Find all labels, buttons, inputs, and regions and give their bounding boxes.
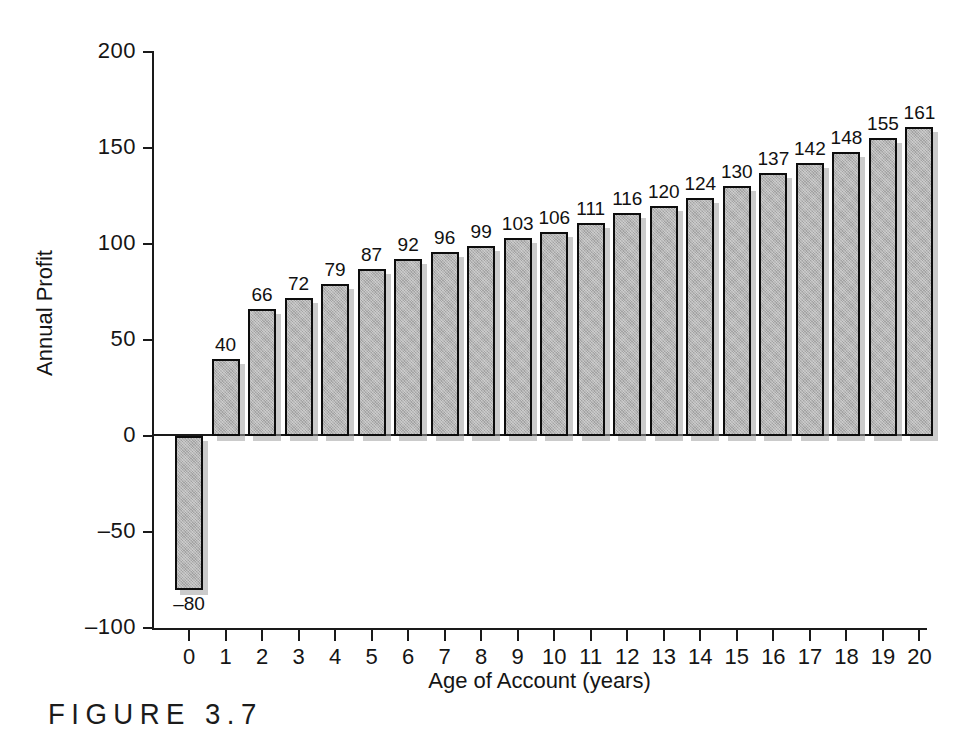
x-tick-10 [553, 630, 555, 641]
x-tick-8 [480, 630, 482, 641]
y-axis-line [152, 52, 154, 630]
y-tick-label-wrap: 0 [40, 424, 136, 446]
x-tick-6 [407, 630, 409, 641]
x-tick-label: 2 [242, 644, 282, 670]
x-tick-18 [845, 630, 847, 641]
bar [431, 252, 459, 436]
y-tick-label: 50 [50, 328, 136, 350]
y-tick-100 [143, 243, 154, 245]
x-tick-label: 4 [315, 644, 355, 670]
x-tick-label: 17 [790, 644, 830, 670]
x-tick-19 [882, 630, 884, 641]
x-tick-label: 11 [571, 644, 611, 670]
y-tick--100 [143, 627, 154, 629]
y-tick-label: –50 [50, 520, 136, 542]
bar [869, 138, 897, 436]
x-tick-label: 12 [607, 644, 647, 670]
x-tick-0 [188, 630, 190, 641]
x-tick-label: 3 [279, 644, 319, 670]
y-tick-150 [143, 147, 154, 149]
bar [796, 163, 824, 436]
x-tick-label: 19 [863, 644, 903, 670]
x-tick-4 [334, 630, 336, 641]
x-tick-9 [517, 630, 519, 641]
x-tick-label: 14 [680, 644, 720, 670]
bar [394, 259, 422, 436]
x-tick-1 [225, 630, 227, 641]
x-tick-2 [261, 630, 263, 641]
y-tick-label-wrap: 150 [40, 136, 136, 158]
bar [358, 269, 386, 436]
figure-container: 200150100500–50–100 01234567891011121314… [0, 0, 976, 742]
figure-caption: FIGURE 3.7 [48, 697, 263, 731]
x-tick-label: 1 [206, 644, 246, 670]
x-tick-label: 16 [753, 644, 793, 670]
x-tick-label: 20 [899, 644, 939, 670]
x-tick-label: 18 [826, 644, 866, 670]
x-tick-label: 0 [169, 644, 209, 670]
bar [212, 359, 240, 436]
bar [759, 173, 787, 436]
x-axis-title: Age of Account (years) [152, 668, 927, 694]
x-tick-5 [371, 630, 373, 641]
y-tick-label: 150 [50, 136, 136, 158]
y-tick-0 [143, 435, 154, 437]
bar [832, 152, 860, 436]
x-tick-label: 15 [717, 644, 757, 670]
bar [650, 206, 678, 436]
bar [504, 238, 532, 436]
bar [577, 223, 605, 436]
bar-value-label: 161 [892, 103, 946, 123]
x-tick-label: 6 [388, 644, 428, 670]
bar [723, 186, 751, 436]
x-tick-label: 13 [644, 644, 684, 670]
bar [540, 232, 568, 436]
y-tick-50 [143, 339, 154, 341]
bar [905, 127, 933, 436]
y-tick-label-wrap: –100 [40, 616, 136, 638]
x-tick-20 [918, 630, 920, 641]
x-tick-16 [772, 630, 774, 641]
bar [248, 309, 276, 436]
y-tick-label: 0 [50, 424, 136, 446]
bar [321, 284, 349, 436]
bar-value-label: 40 [199, 335, 253, 355]
y-tick-label-wrap: 200 [40, 40, 136, 62]
x-tick-17 [809, 630, 811, 641]
x-tick-label: 9 [498, 644, 538, 670]
x-tick-3 [298, 630, 300, 641]
x-tick-label: 5 [352, 644, 392, 670]
x-tick-label: 10 [534, 644, 574, 670]
bar [613, 213, 641, 436]
x-tick-label: 7 [425, 644, 465, 670]
x-tick-14 [699, 630, 701, 641]
bar [686, 198, 714, 436]
x-tick-7 [444, 630, 446, 641]
y-axis-title: Annual Profit [32, 213, 58, 413]
y-tick--50 [143, 531, 154, 533]
bar [285, 298, 313, 436]
y-tick-label-wrap: –50 [40, 520, 136, 542]
x-tick-label: 8 [461, 644, 501, 670]
y-tick-label: 100 [50, 232, 136, 254]
x-tick-15 [736, 630, 738, 641]
x-tick-12 [626, 630, 628, 641]
y-tick-label: 200 [50, 40, 136, 62]
bar [467, 246, 495, 436]
y-tick-200 [143, 51, 154, 53]
x-tick-13 [663, 630, 665, 641]
x-tick-11 [590, 630, 592, 641]
bar [175, 436, 203, 590]
bar-value-label: –80 [162, 594, 216, 614]
y-tick-label: –100 [50, 616, 136, 638]
